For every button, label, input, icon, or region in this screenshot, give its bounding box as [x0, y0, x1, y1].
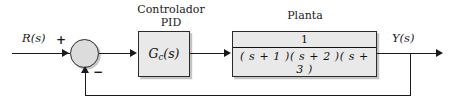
feedback-return-wire [85, 95, 411, 96]
controller-gain-argument: (s) [163, 46, 179, 61]
output-arrowhead [436, 49, 443, 57]
plant-input-arrowhead [224, 49, 231, 57]
feedback-arrowhead [81, 66, 89, 73]
feedback-riser-wire [85, 72, 86, 95]
controller-transfer-function: Gc(s) [149, 46, 180, 62]
controller-output-wire [190, 53, 227, 54]
output-wire [377, 53, 439, 54]
input-arrowhead [62, 49, 69, 57]
plus-sign-label: + [56, 34, 66, 46]
output-signal-label: Y(s) [392, 33, 414, 45]
minus-sign-label: − [93, 66, 103, 78]
plant-transfer-function: 1 ( s + 1 )( s + 2 )( s + 3 ) [233, 33, 376, 76]
controller-block: Gc(s) [138, 31, 190, 77]
controller-input-arrowhead [130, 49, 137, 57]
summing-junction-body [71, 40, 98, 67]
input-signal-label: R(s) [22, 33, 46, 45]
controller-caption-line2: PID [132, 17, 210, 28]
controller-caption-line1: Controlador [132, 4, 210, 15]
controller-block-body: Gc(s) [139, 32, 189, 76]
controller-gain-symbol: G [149, 46, 159, 61]
feedback-tap-wire [410, 53, 411, 95]
error-wire [99, 53, 132, 54]
plant-numerator: 1 [233, 33, 376, 48]
control-block-diagram: Controlador PID Planta R(s) + − Gc(s) 1 … [0, 0, 459, 104]
summing-junction [70, 39, 99, 68]
plant-caption: Planta [265, 10, 345, 21]
plant-block-body: 1 ( s + 1 )( s + 2 )( s + 3 ) [233, 32, 376, 76]
plant-block: 1 ( s + 1 )( s + 2 )( s + 3 ) [232, 31, 377, 77]
plant-denominator: ( s + 1 )( s + 2 )( s + 3 ) [233, 48, 376, 76]
